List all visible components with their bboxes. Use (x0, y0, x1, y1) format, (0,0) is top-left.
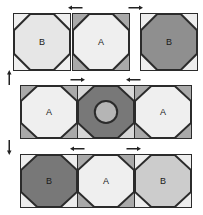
arrow-up-icon (5, 70, 12, 85)
arrow-bottom-left (70, 144, 85, 151)
tile-middle-1: A (20, 85, 78, 139)
tile-label: A (21, 86, 77, 138)
arrow-top-left (68, 3, 83, 10)
tile-label (78, 86, 134, 138)
arrow-right-icon (70, 75, 85, 82)
tile-label: B (135, 155, 191, 207)
side-arrow-up (5, 70, 12, 85)
tile-top-2: A (72, 13, 130, 71)
tile-label: A (73, 14, 129, 70)
row-middle: A A (20, 85, 192, 139)
tile-middle-2 (77, 85, 135, 139)
arrow-right-icon (126, 144, 141, 151)
tile-bottom-1: B (20, 154, 78, 208)
side-arrow-down (5, 140, 12, 155)
tile-label: A (135, 86, 191, 138)
tile-label: A (78, 155, 134, 207)
row-bottom: B A B (20, 154, 192, 208)
arrow-left-icon (126, 75, 141, 82)
arrow-left-icon (70, 144, 85, 151)
tile-bottom-3: B (134, 154, 192, 208)
tile-top-3: B (140, 13, 198, 71)
tile-bottom-2: A (77, 154, 135, 208)
arrow-left-icon (68, 3, 83, 10)
arrow-top-right (128, 3, 143, 10)
tile-middle-3: A (134, 85, 192, 139)
row-top: B A B (13, 13, 189, 71)
arrow-bottom-right (126, 144, 141, 151)
arrow-right-icon (128, 3, 143, 10)
tile-label: B (141, 14, 197, 70)
arrow-down-icon (5, 140, 12, 155)
tiling-figure: B A B (0, 0, 203, 215)
arrow-middle-right (70, 75, 85, 82)
tile-label: B (21, 155, 77, 207)
arrow-middle-left (126, 75, 141, 82)
tile-top-1: B (13, 13, 71, 71)
tile-label: B (14, 14, 70, 70)
